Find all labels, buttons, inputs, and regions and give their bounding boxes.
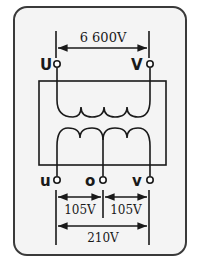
terminal-V-label: V: [131, 56, 143, 74]
terminal-o-label: o: [85, 172, 95, 190]
terminal-o: [100, 177, 106, 183]
primary-voltage-label: 6 600V: [80, 30, 127, 45]
ov-voltage-label: 105V: [110, 203, 142, 217]
terminal-U-label: U: [40, 56, 52, 74]
secondary-winding-right: [103, 128, 150, 176]
primary-winding: [57, 68, 150, 117]
terminal-u: [54, 177, 60, 183]
terminal-U: [54, 61, 60, 67]
terminal-V: [147, 61, 153, 67]
secondary-winding-left: [57, 128, 103, 176]
transformer-diagram: 6 600V U V u o v 105V 105V 210V: [0, 0, 201, 273]
terminal-u-label: u: [40, 172, 51, 190]
terminal-v-label: v: [132, 172, 142, 190]
uv-voltage-label: 210V: [87, 231, 119, 245]
terminal-v: [147, 177, 153, 183]
uo-voltage-label: 105V: [64, 203, 96, 217]
